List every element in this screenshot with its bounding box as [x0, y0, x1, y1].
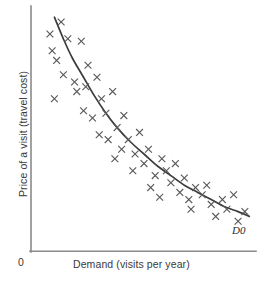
origin-label: 0	[18, 256, 24, 268]
plot-area	[0, 0, 267, 288]
data-point-marker	[136, 129, 143, 136]
data-point-marker	[109, 88, 116, 95]
data-point-marker	[49, 47, 56, 54]
y-axis-label: Price of a visit (travel cost)	[17, 49, 29, 219]
data-point-marker	[185, 196, 192, 203]
x-axis-label: Demand (visits per year)	[73, 258, 190, 270]
data-point-marker	[176, 189, 183, 196]
data-point-marker	[73, 88, 80, 95]
data-point-marker	[208, 201, 215, 208]
data-point-marker	[172, 160, 179, 167]
data-point-marker	[181, 175, 188, 182]
data-point-marker	[167, 179, 174, 186]
data-point-marker	[51, 95, 58, 102]
axes	[30, 6, 256, 252]
data-point-markers	[47, 19, 249, 225]
data-point-marker	[94, 74, 101, 81]
data-point-marker	[147, 184, 154, 191]
data-point-marker	[71, 79, 78, 86]
data-point-marker	[89, 115, 96, 122]
data-point-marker	[78, 38, 85, 45]
data-point-marker	[159, 155, 166, 162]
data-point-marker	[64, 35, 71, 42]
scatter-chart-figure: Price of a visit (travel cost) Demand (v…	[0, 0, 267, 288]
data-point-marker	[96, 131, 103, 138]
data-point-marker	[118, 146, 125, 153]
data-point-marker	[105, 136, 112, 143]
data-point-marker	[114, 124, 121, 131]
data-point-marker	[80, 107, 87, 114]
data-point-marker	[132, 151, 139, 158]
data-point-marker	[192, 184, 199, 191]
data-point-marker	[188, 206, 195, 213]
data-point-marker	[156, 194, 163, 201]
data-point-marker	[60, 71, 67, 78]
data-point-marker	[203, 182, 210, 189]
data-point-marker	[47, 31, 54, 38]
demand-curve-label: D0	[232, 224, 245, 236]
data-point-marker	[125, 136, 132, 143]
data-point-marker	[111, 155, 118, 162]
data-point-marker	[219, 196, 226, 203]
data-point-marker	[120, 112, 127, 119]
data-point-marker	[58, 19, 65, 26]
data-point-marker	[145, 146, 152, 153]
data-point-marker	[98, 95, 105, 102]
data-point-marker	[103, 110, 110, 117]
data-point-marker	[85, 62, 92, 69]
data-point-marker	[129, 167, 136, 174]
data-point-marker	[53, 57, 60, 64]
data-point-marker	[212, 213, 219, 220]
data-point-marker	[230, 191, 237, 198]
data-point-marker	[152, 172, 159, 179]
data-point-marker	[199, 191, 206, 198]
data-point-marker	[141, 160, 148, 167]
